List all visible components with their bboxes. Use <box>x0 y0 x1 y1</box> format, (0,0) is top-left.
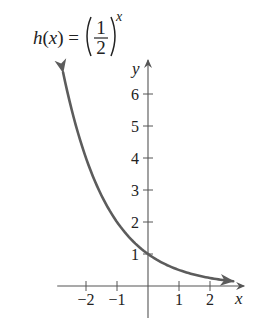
x-ticks: −2−112 <box>77 281 214 308</box>
svg-text:h(x) =: h(x) = <box>33 27 79 49</box>
title-exponent: x <box>115 9 123 24</box>
y-ticks: 123456 <box>131 86 153 263</box>
y-tick-label: 5 <box>131 118 139 135</box>
y-tick-label: 1 <box>131 246 139 263</box>
y-axis-label: y <box>130 59 140 78</box>
chart-title: h(x) = 1 2 x <box>33 9 123 58</box>
y-tick-label: 2 <box>131 214 139 231</box>
x-tick-label: −1 <box>108 291 125 308</box>
title-numerator: 1 <box>96 17 106 38</box>
y-tick-label: 3 <box>131 182 139 199</box>
title-equals: = <box>68 27 79 48</box>
title-func-name: h <box>33 27 43 48</box>
title-left-bracket <box>87 17 91 56</box>
x-tick-label: 1 <box>175 291 183 308</box>
x-tick-label: −2 <box>77 291 94 308</box>
x-tick-label: 2 <box>206 291 214 308</box>
y-tick-label: 6 <box>131 86 139 103</box>
exponential-chart: h(x) = 1 2 x x y −2−112 123456 <box>0 0 257 318</box>
title-denominator: 2 <box>96 37 106 58</box>
title-right-bracket <box>111 17 115 56</box>
y-tick-label: 4 <box>131 150 139 167</box>
x-axis-label: x <box>234 289 243 308</box>
title-close-paren: ) <box>57 27 68 49</box>
